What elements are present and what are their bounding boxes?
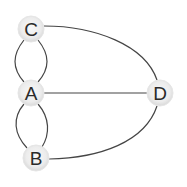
node-c[interactable]: C [18,16,44,42]
edge-a-b-left [16,104,27,148]
edge-c-a-left [15,40,24,82]
node-c-label: C [24,19,38,40]
edge-c-d [44,26,157,80]
node-b[interactable]: B [23,145,49,171]
node-d[interactable]: D [147,80,173,106]
edge-a-b-right [38,104,48,147]
node-b-label: B [30,148,43,169]
node-a-label: A [25,83,38,104]
graph-diagram: C A D B [0,0,187,187]
node-d-label: D [153,83,167,104]
edge-b-d [49,106,157,159]
node-a[interactable]: A [18,80,44,106]
edge-c-a-right [38,40,47,82]
